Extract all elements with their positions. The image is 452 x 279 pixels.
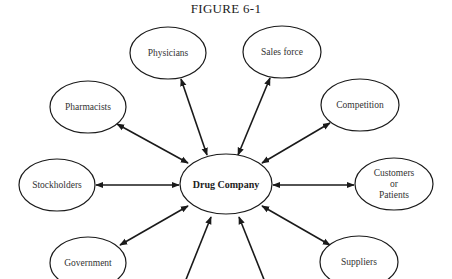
- node-label: Drug Company: [193, 179, 259, 190]
- arrow-sales-force: [238, 78, 270, 155]
- node-competition: Competition: [321, 79, 399, 131]
- node-label: Stockholders: [32, 180, 82, 191]
- node-drug-company: Drug Company: [180, 154, 272, 214]
- arrow-offscreen-bottom-right: [239, 217, 265, 279]
- node-label: Competition: [336, 100, 384, 111]
- figure-title: FIGURE 6-1: [0, 1, 452, 17]
- node-sales-force: Sales force: [243, 26, 321, 78]
- arrow-pharmacists: [117, 124, 188, 163]
- arrow-competition: [262, 123, 330, 163]
- node-label: Government: [64, 258, 112, 269]
- arrow-offscreen-bottom-left: [185, 217, 211, 279]
- node-label: Physicians: [148, 48, 189, 59]
- node-label: Suppliers: [341, 257, 377, 268]
- node-customers-or-patients: Customers or Patients: [355, 158, 433, 210]
- node-label: Customers or Patients: [374, 168, 415, 201]
- node-label: Pharmacists: [65, 102, 111, 113]
- node-physicians: Physicians: [130, 27, 206, 79]
- node-stockholders: Stockholders: [19, 159, 95, 211]
- node-government: Government: [50, 237, 126, 279]
- arrow-physicians: [181, 79, 207, 155]
- arrow-government: [120, 206, 188, 245]
- figure-diagram: FIGURE 6-1 Drug CompanyPhysiciansSales f…: [0, 0, 452, 279]
- node-label: Sales force: [261, 47, 303, 58]
- node-pharmacists: Pharmacists: [50, 81, 126, 133]
- node-suppliers: Suppliers: [320, 236, 398, 279]
